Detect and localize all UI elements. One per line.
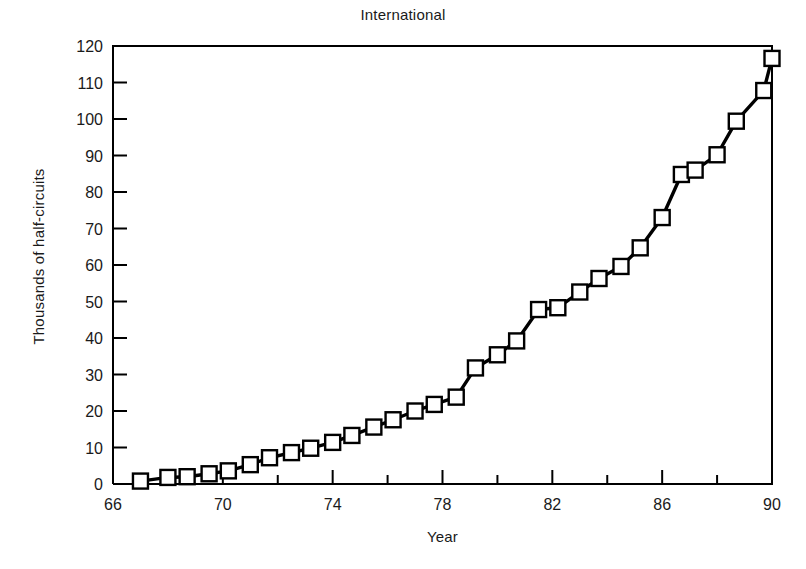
data-point-marker xyxy=(490,347,505,362)
y-tick-label: 90 xyxy=(85,148,103,165)
y-tick-label: 80 xyxy=(85,184,103,201)
data-point-marker xyxy=(765,51,780,66)
data-point-marker xyxy=(325,435,340,450)
y-tick-label: 40 xyxy=(85,330,103,347)
data-point-marker xyxy=(756,83,771,98)
data-point-marker xyxy=(133,474,148,489)
y-tick-label: 20 xyxy=(85,403,103,420)
x-tick-label: 66 xyxy=(104,496,122,513)
x-tick-label: 82 xyxy=(543,496,561,513)
data-point-marker xyxy=(531,302,546,317)
y-tick-label: 30 xyxy=(85,367,103,384)
plot-area: 0102030405060708090100110120 66707478828… xyxy=(0,0,806,569)
data-point-marker xyxy=(386,412,401,427)
x-tick-label: 90 xyxy=(763,496,781,513)
x-tick-label: 70 xyxy=(214,496,232,513)
data-point-marker xyxy=(366,420,381,435)
data-point-marker xyxy=(243,457,258,472)
data-point-marker xyxy=(468,360,483,375)
chart-page: International Thousands of half-circuits… xyxy=(0,0,806,569)
data-series-line xyxy=(140,58,772,481)
y-tick-label: 110 xyxy=(77,75,103,92)
data-point-marker xyxy=(303,441,318,456)
data-point-marker xyxy=(262,450,277,465)
y-tick-label: 60 xyxy=(85,257,103,274)
data-point-marker xyxy=(572,285,587,300)
y-tick-label: 70 xyxy=(85,221,103,238)
data-point-marker xyxy=(221,463,236,478)
x-tick-label: 74 xyxy=(324,496,342,513)
data-point-marker xyxy=(550,300,565,315)
data-point-marker xyxy=(344,428,359,443)
data-point-marker xyxy=(449,390,464,405)
data-point-marker xyxy=(180,469,195,484)
x-tick-label: 86 xyxy=(653,496,671,513)
data-point-marker xyxy=(202,466,217,481)
y-tick-label: 120 xyxy=(76,38,103,55)
data-point-marker xyxy=(688,163,703,178)
data-point-marker xyxy=(633,240,648,255)
data-point-marker xyxy=(160,470,175,485)
data-point-marker xyxy=(613,259,628,274)
data-series-markers xyxy=(133,51,780,489)
y-tick-label: 0 xyxy=(94,476,103,493)
data-point-marker xyxy=(408,404,423,419)
y-axis-ticks: 0102030405060708090100110120 xyxy=(76,38,127,493)
y-tick-label: 100 xyxy=(76,111,103,128)
data-point-marker xyxy=(729,114,744,129)
data-point-marker xyxy=(710,147,725,162)
x-tick-label: 78 xyxy=(434,496,452,513)
data-point-marker xyxy=(284,445,299,460)
axis-frame xyxy=(113,46,772,484)
y-tick-label: 50 xyxy=(85,294,103,311)
data-point-marker xyxy=(655,210,670,225)
data-point-marker xyxy=(592,271,607,286)
data-point-marker xyxy=(427,397,442,412)
y-tick-label: 10 xyxy=(85,440,103,457)
data-point-marker xyxy=(509,333,524,348)
